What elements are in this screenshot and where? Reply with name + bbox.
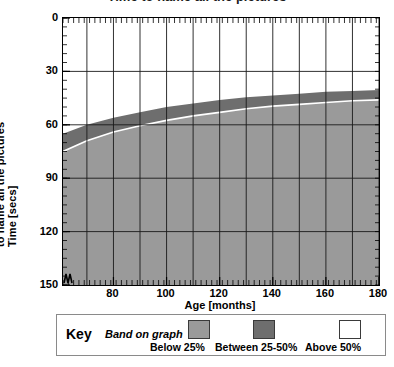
plot-svg [63, 18, 379, 285]
x-axis-title: Age [months] [62, 299, 378, 311]
corner-mark: • [197, 0, 391, 4]
legend-subtitle: Band on graph [105, 328, 183, 340]
legend-key-box: Key Band on graph Below 25% Between 25-5… [56, 314, 386, 356]
legend-label-between-25-50: Between 25-50% [215, 341, 297, 353]
legend-swatch-between-25-50 [253, 320, 275, 339]
legend-key-word: Key [66, 326, 92, 342]
legend-swatch-below-25 [188, 320, 210, 339]
plot-canvas [62, 17, 380, 286]
legend-label-below-25: Below 25% [150, 341, 205, 353]
legend-swatch-above-50 [339, 320, 361, 339]
y-axis-ticklabels: 0306090120150 [18, 17, 58, 284]
y-tick-label: 0 [22, 12, 58, 23]
chart-area: Time [secs] to name all the pictures 030… [0, 7, 394, 307]
figure-title-cropped: Time to name all the pictures • [0, 0, 394, 7]
y-tick-label: 120 [22, 226, 58, 237]
y-tick-label: 90 [22, 172, 58, 183]
y-tick-label: 30 [22, 65, 58, 76]
y-tick-label: 150 [22, 279, 58, 290]
y-axis-title-line-1: Time [secs] [6, 186, 18, 247]
x-tick-label: 140 [252, 287, 292, 299]
x-tick-label: 100 [146, 287, 186, 299]
chart-figure: Time to name all the pictures • Time [se… [0, 0, 394, 367]
y-tick-label: 60 [22, 119, 58, 130]
x-tick-label: 160 [305, 287, 345, 299]
x-tick-label: 120 [199, 287, 239, 299]
x-tick-label: 80 [92, 287, 132, 299]
legend-label-above-50: Above 50% [305, 341, 361, 353]
x-tick-label: 180 [358, 287, 394, 299]
y-axis-title-line-2: to name all the pictures [0, 122, 6, 247]
